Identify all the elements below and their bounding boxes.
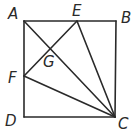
label-G: G (43, 53, 55, 71)
geometry-diagram: A E B G F D C (0, 0, 140, 137)
label-E: E (72, 2, 82, 20)
label-B: B (121, 9, 131, 27)
segment-BC (115, 21, 116, 117)
label-A: A (7, 5, 18, 23)
segment-AC (24, 21, 115, 117)
label-F: F (8, 69, 17, 87)
label-D: D (5, 112, 17, 130)
label-C: C (118, 115, 129, 133)
